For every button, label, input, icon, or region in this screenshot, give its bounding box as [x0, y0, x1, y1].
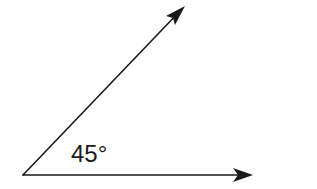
angle-figure — [0, 0, 317, 189]
angle-label: 45° — [71, 142, 107, 166]
angle-diagram: 45° — [0, 0, 317, 189]
